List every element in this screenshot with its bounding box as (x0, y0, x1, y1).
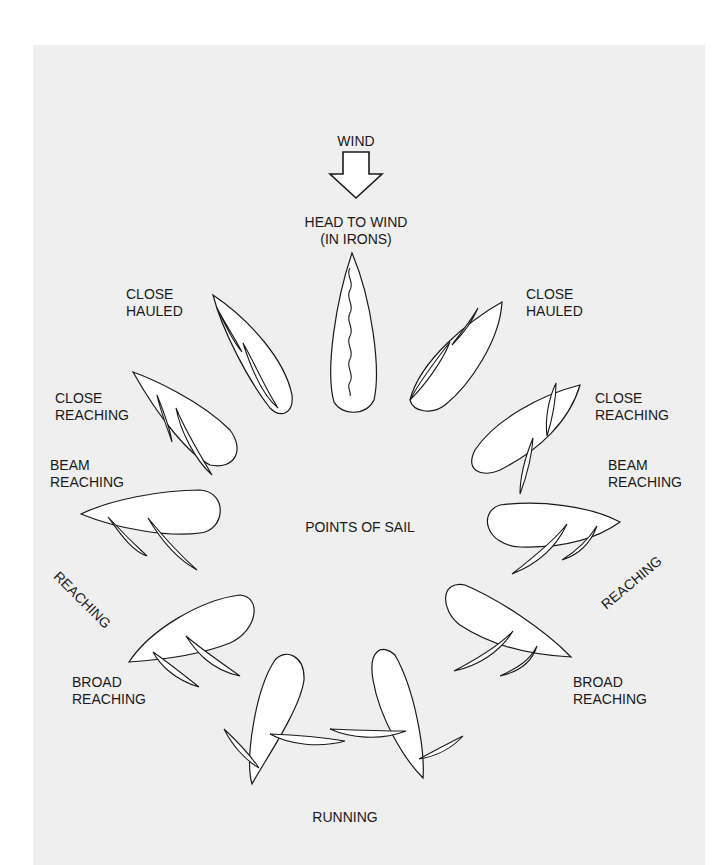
wind-arrow-icon (330, 152, 382, 198)
boat-broad-reaching-left (129, 595, 254, 687)
wind-label: WIND (326, 133, 386, 150)
boat-head-to-wind (331, 253, 377, 412)
label-beam-reaching-right: BEAM REACHING (608, 457, 682, 491)
boat-running-right (330, 649, 463, 778)
boat-running-left (224, 654, 345, 784)
label-running: RUNNING (290, 809, 400, 826)
points-of-sail-diagram (0, 0, 728, 865)
label-head-to-wind: HEAD TO WIND (IN IRONS) (286, 214, 426, 248)
boat-beam-reaching-left (81, 490, 220, 570)
label-beam-reaching-left: BEAM REACHING (50, 457, 124, 491)
label-close-hauled-right: CLOSE HAULED (526, 286, 583, 320)
boat-close-hauled-left (213, 295, 292, 414)
boat-close-reaching-right (472, 383, 580, 494)
label-broad-reaching-left: BROAD REACHING (72, 674, 146, 708)
label-close-reaching-left: CLOSE REACHING (55, 390, 129, 424)
boat-close-hauled-right (410, 302, 502, 411)
diagram-title: POINTS OF SAIL (290, 519, 430, 536)
label-broad-reaching-right: BROAD REACHING (573, 674, 647, 708)
label-close-reaching-right: CLOSE REACHING (595, 390, 669, 424)
boat-close-reaching-left (133, 372, 237, 475)
label-close-hauled-left: CLOSE HAULED (126, 286, 183, 320)
boat-beam-reaching-right (487, 503, 620, 574)
boat-broad-reaching-right (446, 584, 571, 676)
